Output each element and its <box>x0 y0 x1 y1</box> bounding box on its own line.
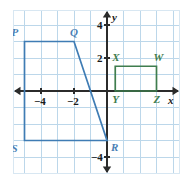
coordinate-plane-figure: PQRSXWZY −4−242−4xy <box>0 0 193 183</box>
axes-lines <box>14 11 179 173</box>
grid-and-shapes-svg <box>13 10 180 174</box>
plot-area: PQRSXWZY −4−242−4xy <box>13 10 180 174</box>
y-axis-name: y <box>112 12 117 23</box>
grid-lines <box>13 10 180 174</box>
vertex-label-r: R <box>111 142 118 153</box>
plot-border <box>14 11 180 174</box>
vertex-label-q: Q <box>70 27 78 38</box>
y-tick-label-neg4: −4 <box>91 152 103 163</box>
vertex-label-z: Z <box>154 94 161 105</box>
x-axis-name: x <box>168 95 174 106</box>
y-tick-label-4: 4 <box>97 20 103 31</box>
vertex-label-w: W <box>154 52 164 63</box>
y-axis-arrow-up <box>103 11 111 18</box>
y-tick-label-2: 2 <box>97 53 103 64</box>
vertex-label-x: X <box>112 52 119 63</box>
vertex-label-y: Y <box>112 94 119 105</box>
quadrilateral-XWZY <box>115 66 156 91</box>
vertex-label-s: S <box>13 143 18 154</box>
x-axis-arrow-left <box>14 87 21 95</box>
vertex-label-p: P <box>13 27 18 38</box>
x-tick-label-neg4: −4 <box>34 96 46 107</box>
x-tick-label-neg2: −2 <box>67 96 79 107</box>
y-axis-arrow-down <box>103 167 111 174</box>
